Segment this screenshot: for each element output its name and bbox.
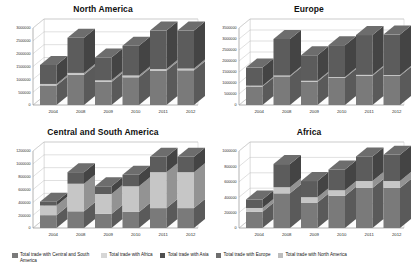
svg-text:1200000: 1200000 [16,149,30,153]
svg-text:2004: 2004 [254,232,264,237]
legend-item: Total trade with North America [278,252,347,258]
legend-item: Total trade with Central and South Ameri… [12,252,94,263]
chart-grid: North America 05000001000000150000020000… [0,0,412,246]
legend-label: Total trade with Asia [168,252,209,258]
legend-swatch-icon [216,253,222,259]
svg-text:2011: 2011 [159,232,169,237]
svg-text:1000000: 1000000 [16,162,30,166]
svg-text:2012: 2012 [392,109,402,114]
panel-central-south-america: Central and South America 02000004000006… [0,123,206,246]
svg-text:2000000: 2000000 [222,59,236,63]
svg-text:1500000: 1500000 [222,70,236,74]
svg-text:2004: 2004 [254,109,264,114]
svg-text:2012: 2012 [186,232,196,237]
panel-title-africa: Africa [206,127,412,137]
svg-text:2011: 2011 [365,109,375,114]
svg-text:3000000: 3000000 [16,26,30,30]
svg-text:1000000: 1000000 [222,149,236,153]
panel-title-north-america: North America [0,4,206,14]
svg-text:2012: 2012 [186,109,196,114]
legend-label: Total trade with North America [286,252,347,258]
plot-europe: 0500000100000015000002000000250000030000… [206,14,412,123]
svg-text:2010: 2010 [131,232,141,237]
svg-text:0: 0 [28,226,30,230]
svg-text:200000: 200000 [18,214,30,218]
legend-item: Total trade with Asia [160,252,209,258]
panel-africa: Africa 020000040000060000080000010000002… [206,123,412,246]
svg-text:2000000: 2000000 [16,52,30,56]
svg-text:1000000: 1000000 [222,81,236,85]
svg-text:400000: 400000 [18,201,30,205]
svg-text:2004: 2004 [48,232,58,237]
legend-label: Total trade with Central and South Ameri… [20,252,94,263]
svg-text:0: 0 [234,103,236,107]
panel-north-america: North America 05000001000000150000020000… [0,0,206,123]
legend-swatch-icon [12,253,18,259]
svg-text:600000: 600000 [224,180,236,184]
svg-text:2008: 2008 [76,109,86,114]
svg-text:800000: 800000 [18,175,30,179]
svg-text:2008: 2008 [76,232,86,237]
svg-text:500000: 500000 [18,91,30,95]
svg-text:2011: 2011 [365,232,375,237]
svg-text:200000: 200000 [224,211,236,215]
svg-text:3000000: 3000000 [222,37,236,41]
svg-text:2009: 2009 [309,109,319,114]
svg-text:2500000: 2500000 [222,48,236,52]
panel-europe: Europe 050000010000001500000200000025000… [206,0,412,123]
svg-text:0: 0 [234,226,236,230]
svg-text:2010: 2010 [337,109,347,114]
svg-text:2011: 2011 [159,109,169,114]
plot-north-america: 0500000100000015000002000000250000030000… [0,14,206,123]
legend-label: Total trade with Africa [109,252,153,258]
svg-text:600000: 600000 [18,188,30,192]
svg-text:400000: 400000 [224,196,236,200]
svg-text:2008: 2008 [282,232,292,237]
legend-swatch-icon [101,253,107,259]
legend-label: Total trade with Europe [224,252,271,258]
svg-text:0: 0 [28,103,30,107]
svg-text:2010: 2010 [337,232,347,237]
svg-text:800000: 800000 [224,165,236,169]
plot-africa: 0200000400000600000800000100000020042008… [206,137,412,246]
svg-text:3500000: 3500000 [222,26,236,30]
legend-swatch-icon [278,253,284,259]
legend-item: Total trade with Europe [216,252,271,258]
svg-text:2500000: 2500000 [16,39,30,43]
legend-swatch-icon [160,253,166,259]
plot-central-south-america: 0200000400000600000800000100000012000002… [0,137,206,246]
svg-text:2009: 2009 [103,109,113,114]
legend-item: Total trade with Africa [101,252,153,258]
chart-legend: Total trade with Central and South Ameri… [0,246,412,274]
svg-text:2009: 2009 [103,232,113,237]
svg-text:2012: 2012 [392,232,402,237]
svg-text:500000: 500000 [224,92,236,96]
svg-text:2008: 2008 [282,109,292,114]
panel-title-europe: Europe [206,4,412,14]
svg-text:1000000: 1000000 [16,78,30,82]
svg-text:2004: 2004 [48,109,58,114]
svg-text:2009: 2009 [309,232,319,237]
panel-title-central-south-america: Central and South America [0,127,206,137]
svg-text:2010: 2010 [131,109,141,114]
svg-text:1500000: 1500000 [16,65,30,69]
